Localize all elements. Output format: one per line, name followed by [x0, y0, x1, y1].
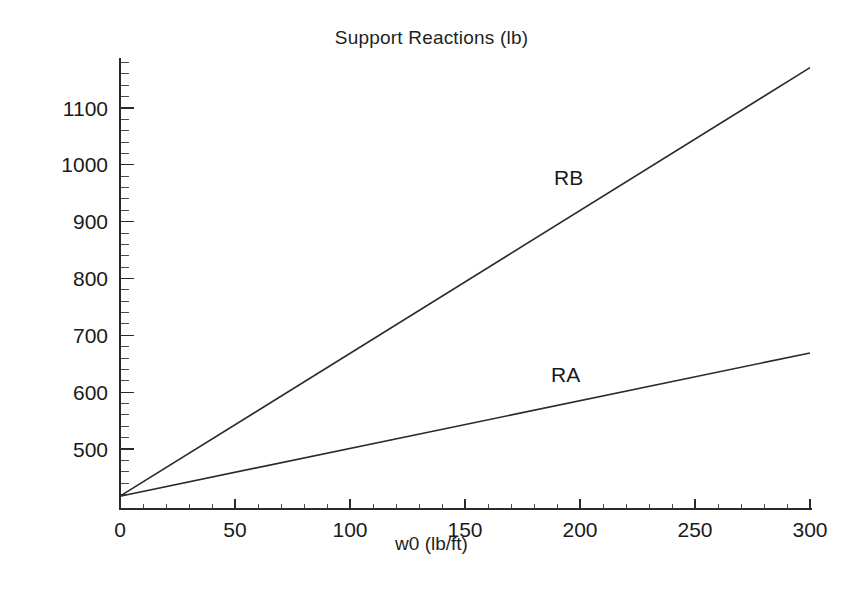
y-tick-label: 500: [73, 438, 108, 461]
x-axis-title: w0 (lb/ft): [0, 533, 863, 555]
chart-figure: Support Reactions (lb) 50060070080090010…: [0, 0, 863, 593]
data-series-group: [120, 68, 810, 497]
x-axis-major-ticks: [120, 499, 810, 509]
y-tick-label: 800: [73, 267, 108, 290]
plot-area: 50060070080090010001100 0501001502002503…: [0, 0, 863, 593]
y-axis-major-ticks: [120, 108, 134, 449]
y-axis-tick-labels: 50060070080090010001100: [61, 97, 108, 461]
series-label-rb: RB: [554, 166, 583, 190]
series-label-ra: RA: [551, 363, 580, 387]
y-tick-label: 1100: [63, 97, 108, 120]
series-line-rb: [120, 68, 810, 497]
y-tick-label: 700: [73, 324, 108, 347]
y-tick-label: 1000: [61, 153, 108, 176]
y-tick-label: 600: [73, 381, 108, 404]
y-tick-label: 900: [73, 210, 108, 233]
series-line-ra: [120, 353, 810, 496]
